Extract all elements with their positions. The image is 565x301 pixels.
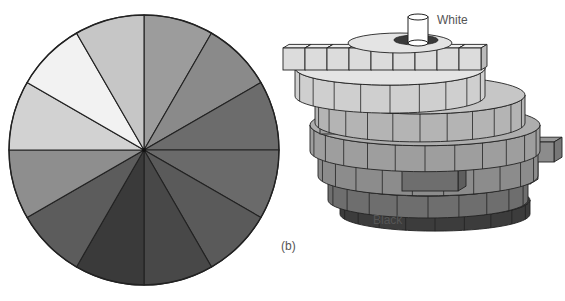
black-label: Black [373, 213, 402, 227]
white-label: White [437, 13, 468, 27]
panel-label: (b) [281, 239, 296, 253]
circle-center [142, 148, 146, 152]
hue-circle [0, 0, 290, 301]
color-solid [270, 0, 565, 301]
white-cylinder [408, 14, 428, 46]
color-block [459, 44, 487, 70]
top-disk [348, 33, 452, 53]
